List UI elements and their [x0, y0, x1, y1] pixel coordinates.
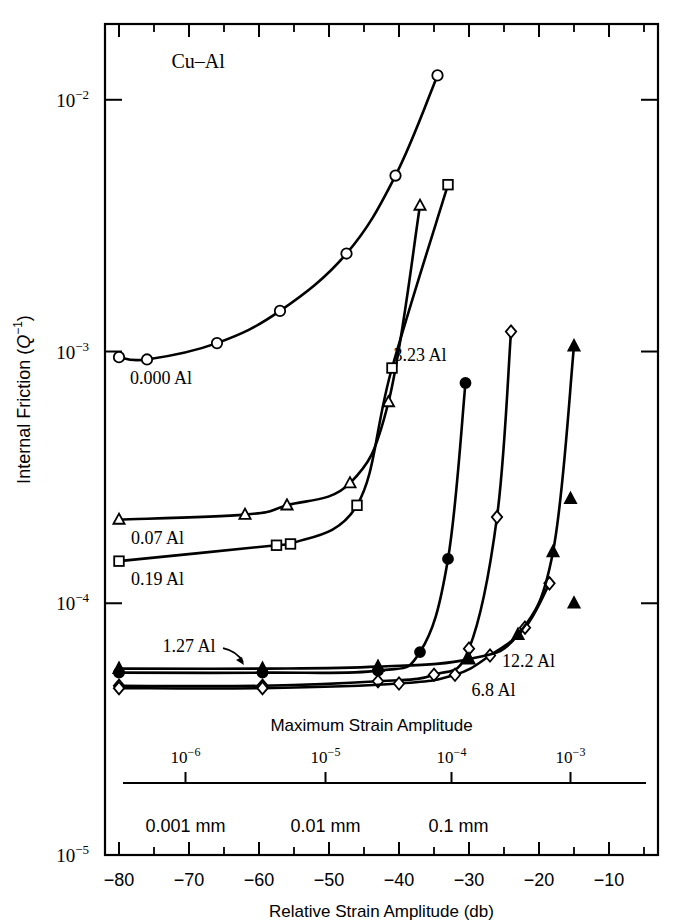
series-label-0-19-al: 0.19 Al — [131, 569, 184, 589]
series-line — [119, 206, 420, 520]
internal-friction-chart: −80−70−60−50−40−30−20−10Relative Strain … — [0, 0, 683, 924]
data-point-open-square — [286, 539, 296, 549]
x-axis-tick-labels: −80−70−60−50−40−30−20−10 — [104, 870, 625, 890]
secondary-axis-tick-label: 10−6 — [171, 745, 201, 767]
series-label-text: 1.27 Al — [162, 636, 215, 656]
series-0-07-al — [113, 200, 425, 524]
series-label-text: 6.8 Al — [471, 680, 515, 700]
series-label-6-8-al: 6.8 Al — [471, 680, 515, 700]
data-point-filled-triangle — [568, 597, 579, 608]
series-label-12-2-al: 12.2 Al — [502, 651, 555, 671]
series-line — [119, 346, 574, 669]
x-tick-label: −50 — [314, 870, 345, 890]
data-point-open-triangle — [414, 200, 425, 210]
series-label-text: 3.23 Al — [393, 345, 446, 365]
data-point-filled-triangle — [568, 340, 579, 351]
series-label-0-07-al: 0.07 Al — [131, 528, 184, 548]
series-line — [119, 75, 438, 360]
x-tick-label: −30 — [454, 870, 485, 890]
tertiary-axis-label: 0.01 mm — [290, 816, 360, 836]
tertiary-axis-label: 0.1 mm — [428, 816, 488, 836]
data-point-open-square — [387, 363, 397, 373]
y-tick-label: 10−4 — [56, 590, 89, 614]
x-tick-label: −70 — [174, 870, 205, 890]
y-tick-label: 10−3 — [56, 339, 89, 363]
data-point-open-circle — [212, 338, 222, 348]
series-12-2-al — [113, 340, 579, 673]
x-axis-title: Relative Strain Amplitude (db) — [269, 902, 494, 921]
series-label-0-000-al: 0.000 Al — [130, 368, 192, 388]
data-point-open-square — [272, 540, 282, 550]
x-tick-label: −10 — [594, 870, 625, 890]
data-point-open-circle — [142, 354, 152, 364]
figure-root: −80−70−60−50−40−30−20−10Relative Strain … — [0, 0, 683, 924]
secondary-axis-tick-label: 10−5 — [311, 745, 341, 767]
series-label-text: 0.19 Al — [131, 569, 184, 589]
data-point-filled-triangle — [547, 546, 558, 557]
plot-title: Cu–Al — [172, 50, 226, 72]
data-point-open-circle — [432, 70, 442, 80]
series-label-text: 0.07 Al — [131, 528, 184, 548]
tertiary-axis-label: 0.001 mm — [145, 816, 225, 836]
data-point-open-circle — [390, 170, 400, 180]
data-point-open-circle — [275, 306, 285, 316]
data-point-filled-circle — [415, 647, 425, 657]
svg-text:Internal Friction (Q−1): Internal Friction (Q−1) — [11, 315, 34, 484]
data-point-open-square — [114, 556, 124, 566]
y-axis-title: Internal Friction (Q−1) — [11, 315, 34, 484]
data-point-open-square — [443, 180, 453, 190]
data-point-open-diamond — [506, 325, 516, 337]
series-label-3-23-al: 3.23 Al — [393, 345, 446, 365]
series-label-text: 12.2 Al — [502, 651, 555, 671]
annotation-arrow-head — [236, 657, 244, 665]
data-point-open-circle — [341, 248, 351, 258]
data-point-filled-triangle — [565, 493, 576, 504]
x-tick-label: −80 — [104, 870, 135, 890]
data-point-open-diamond — [492, 511, 502, 523]
series-0-000-al — [114, 70, 443, 364]
data-point-filled-circle — [443, 554, 453, 564]
x-tick-label: −20 — [524, 870, 555, 890]
x-tick-label: −60 — [244, 870, 275, 890]
secondary-axis-tick-label: 10−4 — [437, 745, 467, 767]
y-tick-label: 10−2 — [56, 87, 89, 111]
data-point-open-square — [352, 500, 362, 510]
secondary-axis-title: Maximum Strain Amplitude — [270, 716, 472, 735]
y-tick-label: 10−5 — [56, 842, 89, 866]
series-label-1-27-al: 1.27 Al — [162, 636, 244, 665]
secondary-axis-tick-label: 10−3 — [556, 745, 586, 767]
data-point-filled-circle — [461, 378, 471, 388]
x-tick-label: −40 — [384, 870, 415, 890]
data-point-open-circle — [114, 352, 124, 362]
series-label-text: 0.000 Al — [130, 368, 192, 388]
